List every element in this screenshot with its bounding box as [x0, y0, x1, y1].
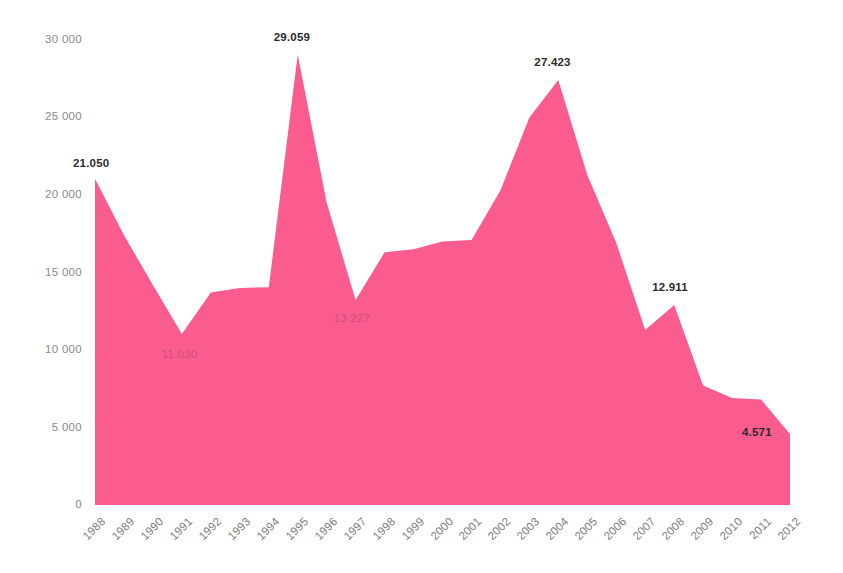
data-label-2012: 4.571: [742, 426, 772, 438]
area-series-polygon: [95, 55, 790, 505]
area-series-svg: [0, 0, 843, 573]
data-label-1988: 21.050: [73, 157, 109, 169]
data-label-1997: 13.227: [334, 312, 370, 324]
data-label-1995: 29.059: [274, 31, 310, 43]
data-label-2008: 12.911: [652, 281, 688, 293]
area-chart: 30 000 25 000 20 000 15 000 10 000 5 000…: [0, 0, 843, 573]
data-label-1991: 11.030: [162, 348, 198, 360]
data-label-2004: 27.423: [534, 56, 570, 68]
